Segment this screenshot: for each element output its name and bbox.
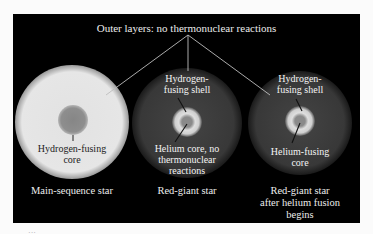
helium-fusion-star-label: Red-giant star after helium fusion begin… (240, 185, 360, 221)
helium-core (182, 117, 193, 128)
main-sequence-star-label: Main-sequence star (17, 185, 127, 197)
helium-fusing-core-label: Helium-fusing core (250, 146, 350, 168)
hydrogen-fusing-core-label: Hydrogen-fusing core (22, 143, 122, 165)
outer-layers-label: Outer layers: no thermonuclear reactions (13, 22, 360, 34)
hydrogen-fusing-core (58, 105, 88, 135)
helium-core-label: Helium core, no thermonuclear reactions (137, 143, 237, 176)
helium-fusing-core (295, 116, 306, 127)
red-giant-shell-label: Hydrogen- fusing shell (137, 73, 237, 95)
cropped-caption-fragment: ··· (28, 228, 36, 234)
red-giant-star-label: Red-giant star (132, 185, 242, 197)
helium-star-shell-label: Hydrogen- fusing shell (250, 73, 350, 95)
